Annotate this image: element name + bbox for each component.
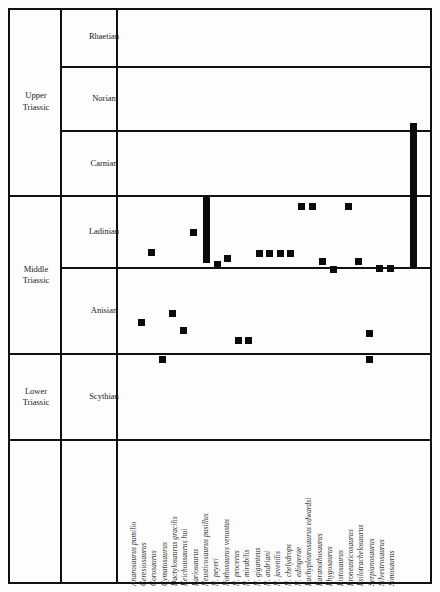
taxon-label: Pistosaurus (336, 550, 345, 586)
taxon-label: Nothosaurus venustus (222, 519, 231, 586)
taxon-label: N. giganteus (253, 547, 262, 586)
taxon-label: Lariosaurus (191, 549, 200, 586)
taxon-label: Paranothosaurus (315, 533, 324, 586)
taxon-label: N. andriani (263, 551, 272, 586)
taxon-label: Serpianosaurus (367, 538, 376, 586)
taxon-label: Proneusticosaurus (346, 529, 355, 586)
taxon-label: N. peyeri (211, 558, 220, 586)
taxon-label: N. chelydrops (284, 544, 293, 586)
taxon-label: Keichousaurus hui (180, 529, 189, 586)
taxon-label: N. procerus (232, 550, 241, 586)
taxon-label: Ceresiosaurus (139, 542, 148, 586)
taxon-label: Neusticosaurus pusillus (201, 513, 210, 586)
taxon-label: Anarosaurus pumilio (129, 522, 138, 586)
taxon-label: N. juvenilis (273, 551, 282, 586)
taxon-label: Psilotrachelosaurus (356, 525, 365, 586)
taxon-label: N. mirabilis (242, 549, 251, 586)
taxon-label: Corosaurus (149, 550, 158, 586)
taxon-label: N. edingerae (294, 547, 303, 586)
taxon-label: Phygosaurus (325, 546, 334, 586)
taxon-label: Dactylosaurus gracilis (170, 516, 179, 586)
stratigraphic-range-chart: Upper Triassic Middle Triassic Lower Tri… (0, 0, 440, 592)
taxon-label: Simosaurus (387, 551, 396, 587)
taxon-label: Cymatosaurus (160, 542, 169, 586)
taxon-labels-layer: Anarosaurus pumilioCeresiosaurusCorosaur… (0, 0, 440, 592)
taxon-label: Pachypleurosaurus edwardsi (304, 498, 313, 586)
taxon-label: Silvestrosaurus (377, 539, 386, 586)
